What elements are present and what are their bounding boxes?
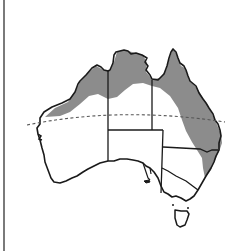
spencer-gulf [143, 163, 151, 180]
kangaroo-island [144, 180, 150, 183]
island-dot [172, 204, 174, 206]
border-nsw-vic [162, 168, 198, 190]
australia-map [0, 0, 252, 251]
distribution-range [45, 48, 222, 178]
border-sa-qld-nsw-vic [161, 130, 163, 193]
tasmania-outline [175, 210, 189, 227]
island-dot [187, 207, 189, 209]
